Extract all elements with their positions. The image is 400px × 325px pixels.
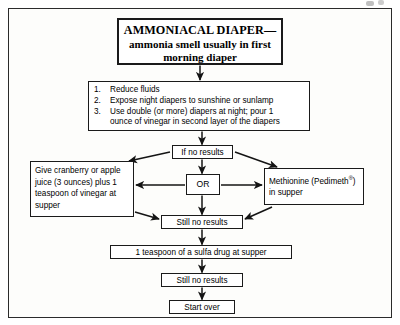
- node-or-junction: OR: [186, 174, 220, 195]
- scan-speck-icon: [378, 0, 384, 5]
- step-text: Use double (or more) diapers at night; p…: [110, 107, 305, 118]
- scan-speck-icon: [366, 1, 374, 6]
- title-line-2: ammonia smell usually in first: [119, 38, 281, 51]
- node-treatment-steps: 1. Reduce fluids 2. Expose night diapers…: [88, 81, 310, 131]
- node-still-no-results-2: Still no results: [161, 273, 243, 287]
- node-cranberry-juice-treatment: Give cranberry or apple juice (3 ounces)…: [30, 161, 134, 217]
- title-line-1: AMMONIACAL DIAPER—: [119, 24, 281, 38]
- node-label: 1 teaspoon of a sulfa drug at supper: [135, 248, 266, 257]
- node-label: If no results: [181, 148, 223, 157]
- node-still-no-results-1: Still no results: [161, 215, 243, 229]
- flowchart-page: AMMONIACAL DIAPER— ammonia smell usually…: [0, 0, 400, 325]
- node-label: OR: [197, 179, 210, 189]
- node-ammoniacal-diaper-title: AMMONIACAL DIAPER— ammonia smell usually…: [117, 18, 283, 65]
- node-sulfa-drug: 1 teaspoon of a sulfa drug at supper: [110, 245, 292, 259]
- step-number: 2.: [94, 96, 110, 107]
- list-item: 2. Expose night diapers to sunshine or s…: [94, 96, 305, 107]
- step-number: 1.: [94, 85, 110, 96]
- node-label: Still no results: [177, 218, 228, 227]
- left-line-3: teaspoon of vinegar at: [35, 188, 130, 200]
- node-start-over: Start over: [169, 300, 235, 314]
- step-text: Reduce fluids: [110, 85, 305, 96]
- title-line-3: morning diaper: [119, 51, 281, 64]
- step-text: ounce of vinegar in second layer of the …: [110, 117, 305, 128]
- left-line-4: supper: [35, 200, 130, 212]
- list-item: 3. Use double (or more) diapers at night…: [94, 107, 305, 118]
- right-line-1-post: ): [353, 177, 356, 186]
- list-item: ounce of vinegar in second layer of the …: [94, 117, 305, 128]
- node-label: Still no results: [177, 276, 228, 285]
- left-line-1: Give cranberry or apple: [35, 165, 130, 177]
- left-line-2: juice (3 ounces) plus 1: [35, 177, 130, 189]
- right-line-1-pre: Methionine (Pedimeth: [269, 177, 349, 186]
- node-label: Start over: [184, 303, 220, 312]
- right-line-1: Methionine (Pedimeth®): [269, 173, 360, 187]
- right-line-2: in supper: [269, 187, 360, 199]
- step-number: 3.: [94, 107, 110, 118]
- node-if-no-results: If no results: [172, 145, 233, 159]
- node-methionine-treatment: Methionine (Pedimeth®) in supper: [264, 168, 364, 205]
- step-text: Expose night diapers to sunshine or sunl…: [110, 96, 305, 107]
- list-item: 1. Reduce fluids: [94, 85, 305, 96]
